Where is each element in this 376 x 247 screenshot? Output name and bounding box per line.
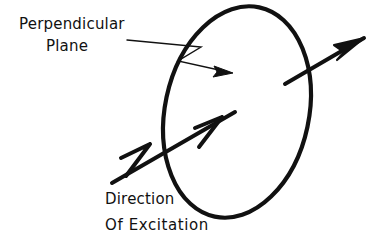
label-perpendicular-plane-line2: Plane — [46, 39, 88, 54]
emission-arrowhead — [334, 38, 364, 60]
label-direction-of-excitation-line2: Of Excitation — [105, 218, 209, 233]
emission-arrow — [285, 38, 364, 84]
diagram-canvas: Perpendicular Plane Direction Of Excitat… — [0, 0, 376, 247]
leader-arrowhead — [213, 66, 233, 77]
label-direction-of-excitation-line1: Direction — [105, 192, 175, 207]
label-perpendicular-plane-line1: Perpendicular — [19, 17, 125, 32]
direction-of-excitation-arrow — [112, 112, 235, 183]
